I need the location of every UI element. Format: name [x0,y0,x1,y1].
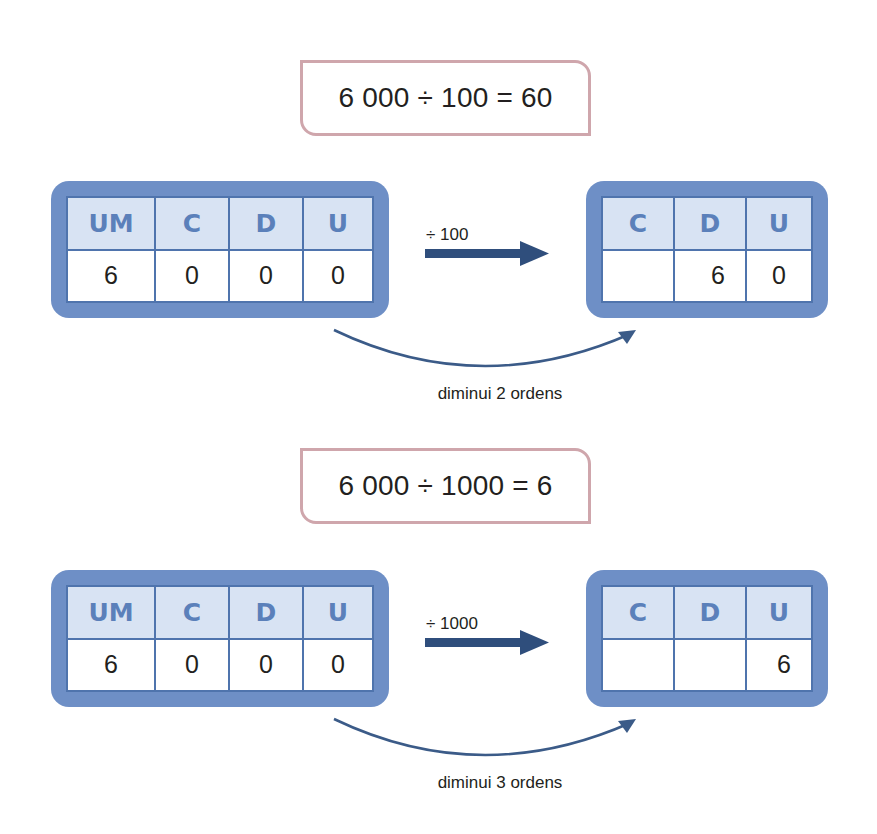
header-u: U [304,587,372,638]
value-c: 0 [156,251,228,302]
equation-text: 6 000 ÷ 100 = 60 [339,82,553,114]
equation-box-2: 6 000 ÷ 1000 = 6 [300,448,591,524]
header-d: D [230,587,302,638]
header-u: U [304,198,372,249]
header-um: UM [68,587,154,638]
value-d: 0 [230,251,302,302]
value-um: 6 [68,640,154,691]
header-d: D [230,198,302,249]
value-d [675,640,745,691]
curved-arrow-icon [330,320,650,380]
caption: diminui 2 ordens [380,384,620,404]
header-um: UM [68,198,154,249]
place-value-table-before-1: UM C D U 6 0 0 0 [51,181,389,318]
header-c: C [156,587,228,638]
value-c: 0 [156,640,228,691]
place-value-table-after-1: C D U 6 0 [586,181,828,318]
header-c: C [603,587,673,638]
header-c: C [603,198,673,249]
caption: diminui 3 ordens [380,773,620,793]
value-d: 0 [230,640,302,691]
value-c [603,640,673,691]
header-d: D [675,198,745,249]
header-u: U [747,587,811,638]
header-d: D [675,587,745,638]
header-u: U [747,198,811,249]
header-c: C [156,198,228,249]
curved-arrow-icon [330,709,650,769]
value-u: 0 [747,251,811,302]
equation-box-1: 6 000 ÷ 100 = 60 [300,60,591,136]
value-u: 0 [304,640,372,691]
place-value-table-after-2: C D U 6 [586,570,828,707]
right-arrow-icon [425,240,555,270]
equation-text: 6 000 ÷ 1000 = 6 [339,470,553,502]
place-value-table-before-2: UM C D U 6 0 0 0 [51,570,389,707]
value-um: 6 [68,251,154,302]
value-d: 6 [675,251,745,302]
value-c [603,251,673,302]
value-u: 6 [747,640,811,691]
value-u: 0 [304,251,372,302]
right-arrow-icon [425,629,555,659]
